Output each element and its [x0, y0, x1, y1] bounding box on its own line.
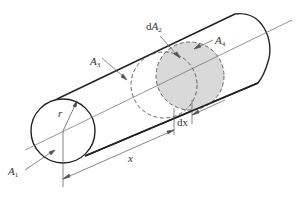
label-dA2: dA2 — [146, 20, 162, 34]
label-A4: A4 — [214, 34, 226, 48]
A3-leader — [102, 58, 127, 80]
label-dx: dx — [177, 116, 189, 128]
label-A1: A1 — [7, 165, 19, 179]
label-A3: A3 — [89, 55, 101, 69]
label-x: x — [127, 152, 133, 164]
x-dimension — [63, 130, 174, 179]
label-r: r — [58, 107, 63, 119]
radius-arrow — [63, 101, 77, 131]
cylinder-diagram: A1 A3 dA2 A4 r x dx — [0, 0, 302, 198]
